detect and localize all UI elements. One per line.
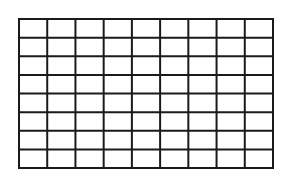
grid-diagram <box>18 18 274 169</box>
grid-lines <box>18 18 274 169</box>
